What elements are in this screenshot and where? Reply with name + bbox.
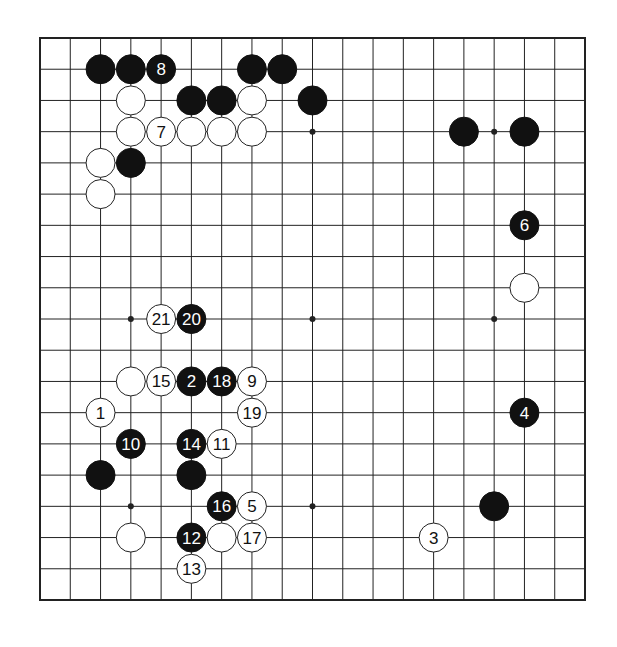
black-stone [86, 461, 115, 490]
star-point [310, 503, 316, 509]
black-stone [86, 55, 115, 84]
black-stone [268, 55, 297, 84]
star-point [128, 316, 134, 322]
white-stone: 13 [177, 554, 206, 583]
black-stone [480, 492, 509, 521]
star-point [310, 316, 316, 322]
star-point [128, 503, 134, 509]
black-stone: 14 [177, 429, 206, 458]
white-stone: 7 [147, 117, 176, 146]
move-number-label: 21 [152, 310, 171, 329]
white-stone [116, 117, 145, 146]
move-number-label: 20 [182, 310, 201, 329]
star-point [310, 129, 316, 135]
move-number-label: 17 [242, 529, 261, 548]
black-stone [177, 461, 206, 490]
move-number-label: 7 [156, 123, 165, 142]
white-stone [86, 180, 115, 209]
white-stone [86, 148, 115, 177]
move-number-label: 9 [247, 372, 256, 391]
white-stone [116, 523, 145, 552]
black-stone [207, 86, 236, 115]
black-stone: 18 [207, 367, 236, 396]
white-stone: 11 [207, 429, 236, 458]
move-number-label: 3 [429, 529, 438, 548]
white-stone: 9 [237, 367, 266, 396]
move-number-label: 4 [520, 404, 529, 423]
move-number-label: 12 [182, 529, 201, 548]
white-stone [510, 273, 539, 302]
black-stone [449, 117, 478, 146]
white-stone [207, 523, 236, 552]
white-stone: 21 [147, 305, 176, 334]
move-number-label: 13 [182, 560, 201, 579]
move-number-label: 14 [182, 435, 201, 454]
black-stone: 6 [510, 211, 539, 240]
white-stone: 5 [237, 492, 266, 521]
star-point [491, 316, 497, 322]
move-number-label: 2 [187, 372, 196, 391]
move-number-label: 5 [247, 497, 256, 516]
black-stone [298, 86, 327, 115]
black-stone [177, 86, 206, 115]
black-stone: 4 [510, 398, 539, 427]
move-number-label: 18 [212, 372, 231, 391]
black-stone: 2 [177, 367, 206, 396]
move-number-label: 8 [156, 60, 165, 79]
black-stone [510, 117, 539, 146]
black-stone: 10 [116, 429, 145, 458]
go-board-diagram: 876212015218911941014111651217313 [0, 0, 617, 647]
move-number-label: 1 [96, 404, 105, 423]
move-number-label: 11 [213, 435, 231, 454]
black-stone: 8 [147, 55, 176, 84]
white-stone: 3 [419, 523, 448, 552]
move-number-label: 16 [212, 497, 231, 516]
star-point [491, 129, 497, 135]
white-stone [116, 86, 145, 115]
move-number-label: 6 [520, 216, 529, 235]
black-stone [237, 55, 266, 84]
white-stone [237, 86, 266, 115]
black-stone [116, 148, 145, 177]
white-stone [177, 117, 206, 146]
black-stone: 16 [207, 492, 236, 521]
move-number-label: 10 [121, 435, 140, 454]
white-stone [207, 117, 236, 146]
white-stone [237, 117, 266, 146]
black-stone: 20 [177, 305, 206, 334]
white-stone: 1 [86, 398, 115, 427]
black-stone: 12 [177, 523, 206, 552]
black-stone [116, 55, 145, 84]
move-number-label: 19 [242, 404, 261, 423]
white-stone: 17 [237, 523, 266, 552]
white-stone: 15 [147, 367, 176, 396]
move-number-label: 15 [152, 372, 171, 391]
white-stone: 19 [237, 398, 266, 427]
white-stone [116, 367, 145, 396]
